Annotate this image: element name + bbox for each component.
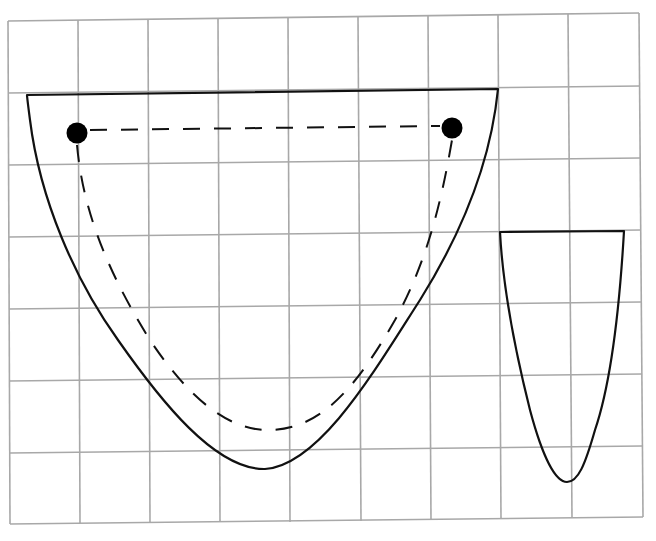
grid-line-v bbox=[78, 20, 80, 523]
grid-line-v bbox=[428, 16, 431, 520]
grid-line-h bbox=[10, 446, 642, 453]
grid-line-h bbox=[8, 13, 639, 21]
grid-line-h bbox=[10, 517, 643, 524]
grid-line-v bbox=[218, 19, 220, 522]
grid-line-v bbox=[358, 17, 361, 521]
right-point-dot bbox=[442, 118, 463, 139]
left-point-dot bbox=[67, 123, 88, 144]
dashed-path bbox=[77, 126, 452, 430]
grid-line-v bbox=[639, 13, 643, 517]
grid bbox=[8, 13, 643, 524]
grid-line-h bbox=[8, 158, 640, 165]
grid-line-v bbox=[288, 18, 290, 522]
grid-line-h bbox=[9, 374, 642, 381]
grid-line-v bbox=[568, 14, 572, 518]
large-trough-shape bbox=[27, 89, 498, 469]
grid-line-h bbox=[9, 302, 641, 309]
grid-line-v bbox=[148, 20, 150, 523]
grid-line-v bbox=[8, 21, 10, 524]
graph-paper-diagram bbox=[0, 0, 656, 541]
small-cup-shape bbox=[500, 231, 624, 482]
